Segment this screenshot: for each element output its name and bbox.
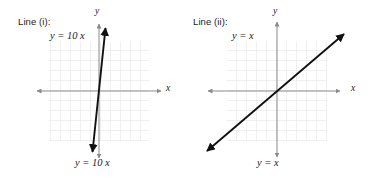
graph-panel-line-i: Line (i): y = 10 x y = 10 x y x	[0, 0, 186, 185]
two-line-graph-figure: Line (i): y = 10 x y = 10 x y x	[0, 0, 372, 185]
graph-svg-line-i	[0, 0, 186, 185]
graph-svg-line-ii	[186, 0, 372, 185]
graph-panel-line-ii: Line (ii): y = x y = x y x	[186, 0, 372, 185]
